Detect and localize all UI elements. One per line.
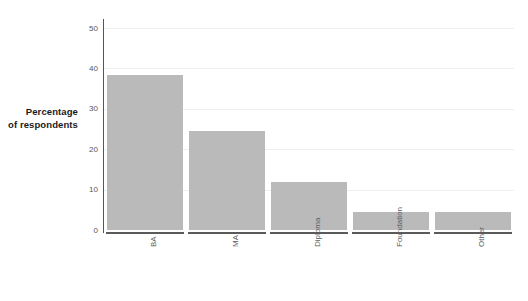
y-axis-tick-labels: 01020304050 bbox=[70, 0, 98, 301]
y-axis-tick-label: 40 bbox=[72, 64, 98, 73]
bar[interactable] bbox=[271, 182, 347, 230]
bar[interactable] bbox=[353, 212, 429, 230]
bar-chart: Percentage of respondents 01020304050 BA… bbox=[0, 0, 528, 301]
bar[interactable] bbox=[107, 75, 183, 230]
x-axis-segment bbox=[270, 232, 348, 234]
plot-area bbox=[104, 20, 514, 230]
x-axis-segment bbox=[188, 232, 266, 234]
bar[interactable] bbox=[435, 212, 511, 230]
gridline bbox=[104, 68, 514, 69]
y-axis-tick-label: 50 bbox=[72, 24, 98, 33]
y-axis-tick-label: 20 bbox=[72, 145, 98, 154]
y-axis-title-line-1: Percentage bbox=[0, 106, 78, 119]
y-axis-tick-label: 10 bbox=[72, 185, 98, 194]
bar[interactable] bbox=[189, 131, 265, 230]
x-axis-segment bbox=[434, 232, 512, 234]
gridline bbox=[104, 28, 514, 29]
x-axis-segment bbox=[352, 232, 430, 234]
y-axis-title-line-2: of respondents bbox=[0, 119, 78, 132]
y-axis-tick-label: 30 bbox=[72, 104, 98, 113]
y-axis-title: Percentage of respondents bbox=[0, 106, 78, 131]
y-axis-tick-label: 0 bbox=[72, 226, 98, 235]
x-axis-segment bbox=[106, 232, 184, 234]
